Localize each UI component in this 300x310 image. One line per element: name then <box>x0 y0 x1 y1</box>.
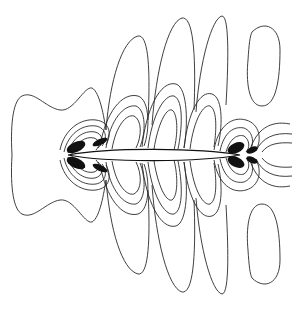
contour-plot <box>0 0 300 310</box>
contour-plot-svg <box>0 0 300 310</box>
lower-contours <box>11 155 292 294</box>
airfoil-body <box>68 149 240 160</box>
upper-contours <box>11 16 292 155</box>
